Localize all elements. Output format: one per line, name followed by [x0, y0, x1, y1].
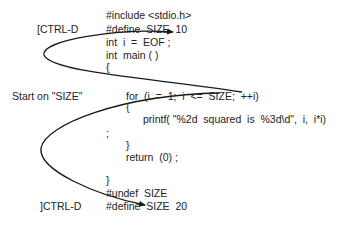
code-line-undef: #undef SIZE [106, 187, 167, 199]
code-line-for-brace: { [126, 101, 130, 113]
code-line-semicolon: ; [106, 127, 109, 139]
code-line-main-close: } [106, 174, 110, 186]
code-line-int-i: int i = EOF ; [106, 36, 170, 48]
code-line-define-10: #define SIZE 10 [106, 23, 187, 35]
ctrl-d-bottom-label: ]CTRL-D [40, 200, 81, 212]
code-line-open-brace: { [106, 61, 110, 73]
ctrl-d-top-label: [CTRL-D [37, 23, 78, 35]
code-line-printf: printf( "%2d squared is %3d\d", i, i*i) [143, 113, 326, 125]
code-line-define-20: #define SIZE 20 [106, 200, 187, 212]
code-line-include: #include <stdio.h> [106, 9, 191, 21]
code-line-return: return (0) ; [126, 151, 178, 163]
code-line-for: for (i = 1; i <= SIZE; ++i) [126, 90, 259, 102]
start-on-size-label: Start on "SIZE" [12, 90, 82, 102]
code-line-main: int main ( ) [106, 49, 159, 61]
code-line-close-brace: } [126, 139, 130, 151]
